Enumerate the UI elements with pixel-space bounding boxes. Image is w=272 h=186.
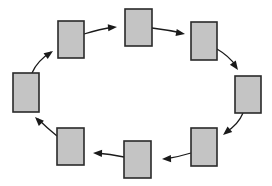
arrowhead-icon bbox=[44, 48, 56, 59]
arrowhead-icon bbox=[108, 23, 118, 31]
arrowhead-icon bbox=[221, 126, 233, 137]
node-box-c bbox=[191, 22, 217, 60]
arrow-g-to-h bbox=[32, 114, 57, 136]
arrow-e-to-f bbox=[162, 153, 191, 163]
arrow-b-to-c bbox=[152, 28, 186, 38]
diagram-canvas bbox=[0, 0, 272, 186]
node-box-h bbox=[13, 73, 39, 112]
arrow-f-to-g bbox=[93, 149, 124, 157]
arrow-h-to-a bbox=[32, 48, 55, 73]
arrowhead-icon bbox=[162, 155, 171, 163]
node-box-d bbox=[235, 76, 261, 113]
arrow-d-to-e bbox=[221, 113, 243, 138]
arrowhead-icon bbox=[93, 149, 102, 157]
node-box-g bbox=[57, 128, 84, 165]
arrow-c-to-d bbox=[217, 49, 241, 72]
cycle-diagram bbox=[0, 0, 272, 186]
arrow-a-to-b bbox=[84, 23, 117, 34]
arrowhead-icon bbox=[230, 61, 241, 73]
node-box-e bbox=[191, 128, 217, 166]
node-box-f bbox=[124, 141, 151, 178]
node-box-a bbox=[58, 21, 84, 58]
arrowhead-icon bbox=[176, 29, 186, 38]
node-box-b bbox=[125, 9, 152, 46]
arrowhead-icon bbox=[32, 114, 43, 125]
